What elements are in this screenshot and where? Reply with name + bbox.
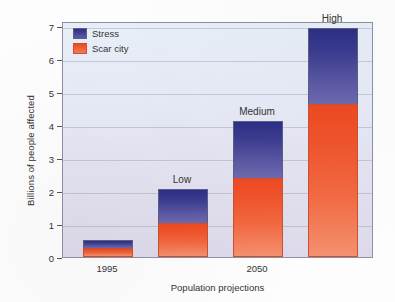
bar-medium-segment-stress [233, 121, 283, 179]
chart-legend: Stress Scar city [73, 27, 128, 57]
y-tick-label-1: 1 [34, 220, 54, 231]
legend-swatch-stress-icon [73, 28, 87, 39]
x-axis-title: Population projections [62, 282, 373, 293]
y-tick-label-7: 7 [34, 22, 54, 33]
bar-high [308, 28, 358, 257]
bar-label-low: Low [147, 174, 217, 185]
bar-label-high: High [297, 13, 367, 24]
y-tick-label-3: 3 [34, 154, 54, 165]
legend-swatch-scarcity-icon [73, 43, 87, 54]
x-tick-label-1995: 1995 [77, 263, 137, 274]
y-tick-label-6: 6 [34, 55, 54, 66]
bar-medium [233, 121, 283, 257]
y-tick-mark-0 [57, 258, 62, 259]
legend-label-scarcity: Scar city [92, 43, 128, 54]
bar-high-segment-stress [308, 28, 358, 105]
y-tick-label-2: 2 [34, 187, 54, 198]
bar-low-segment-stress [158, 189, 208, 224]
bar-label-medium: Medium [222, 106, 292, 117]
bar-high-segment-scarcity [308, 104, 358, 257]
y-tick-label-4: 4 [34, 121, 54, 132]
legend-item-scarcity: Scar city [73, 42, 128, 54]
y-tick-label-0: 0 [34, 253, 54, 264]
chart-figure: Billions of people affected 7 6 5 4 3 2 … [0, 0, 395, 302]
bar-low-segment-scarcity [158, 223, 208, 257]
bar-low [158, 189, 208, 257]
bar-1995-segment-scarcity [83, 248, 133, 257]
bar-1995 [83, 240, 133, 257]
plot-area: Stress Scar city [62, 22, 373, 258]
y-tick-label-5: 5 [34, 88, 54, 99]
legend-item-stress: Stress [73, 27, 128, 39]
bar-medium-segment-scarcity [233, 178, 283, 257]
legend-label-stress: Stress [92, 28, 119, 39]
x-tick-label-2050: 2050 [227, 263, 287, 274]
